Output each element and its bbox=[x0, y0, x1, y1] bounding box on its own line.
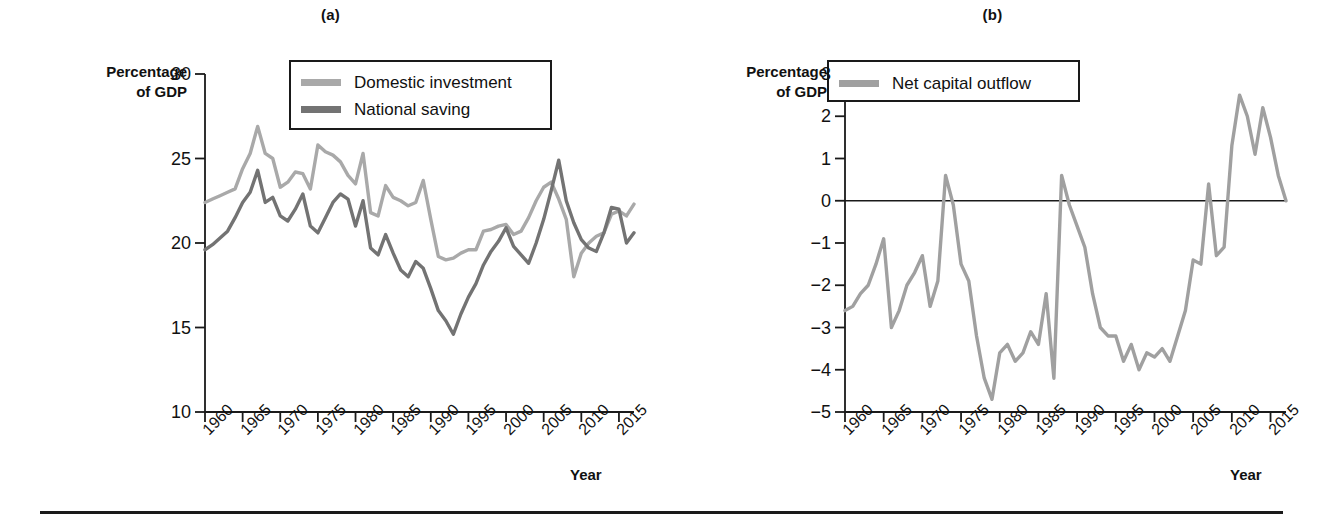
panel-a-legend: Domestic investment National saving bbox=[289, 60, 552, 130]
y-tick-label: 30 bbox=[147, 64, 191, 85]
y-tick-label: 15 bbox=[147, 317, 191, 338]
y-tick-label: 3 bbox=[787, 64, 831, 85]
y-tick-label: 20 bbox=[147, 233, 191, 254]
legend-swatch-domestic-investment bbox=[301, 79, 341, 86]
panel-a-x-axis-title: Year bbox=[570, 466, 602, 483]
panel-b: (b) Percentage of GDP Net capital outflo… bbox=[662, 0, 1323, 500]
y-tick-label: −5 bbox=[787, 402, 831, 423]
panel-b-x-axis-title: Year bbox=[1230, 466, 1262, 483]
legend-label-domestic-investment: Domestic investment bbox=[354, 73, 512, 93]
y-tick-label: 25 bbox=[147, 148, 191, 169]
figure-container: (a) Percentage of GDP Domestic investmen… bbox=[0, 0, 1323, 524]
legend-item-net-capital-outflow: Net capital outflow bbox=[839, 70, 1068, 97]
y-tick-label: 0 bbox=[787, 190, 831, 211]
figure-bottom-rule bbox=[40, 511, 1283, 514]
legend-label-net-capital-outflow: Net capital outflow bbox=[892, 74, 1031, 94]
legend-item-domestic-investment: Domestic investment bbox=[301, 69, 540, 96]
y-tick-label: 2 bbox=[787, 106, 831, 127]
y-tick-label: −3 bbox=[787, 317, 831, 338]
y-tick-label: −1 bbox=[787, 233, 831, 254]
panel-a: (a) Percentage of GDP Domestic investmen… bbox=[0, 0, 661, 500]
y-tick-label: 1 bbox=[787, 148, 831, 169]
legend-item-national-saving: National saving bbox=[301, 96, 540, 123]
y-tick-label: 10 bbox=[147, 402, 191, 423]
y-tick-label: −4 bbox=[787, 359, 831, 380]
y-tick-label: −2 bbox=[787, 275, 831, 296]
panel-b-legend: Net capital outflow bbox=[827, 60, 1080, 102]
legend-swatch-net-capital-outflow bbox=[839, 80, 879, 87]
series-line bbox=[845, 95, 1286, 399]
legend-label-national-saving: National saving bbox=[354, 100, 470, 120]
legend-swatch-national-saving bbox=[301, 106, 341, 113]
